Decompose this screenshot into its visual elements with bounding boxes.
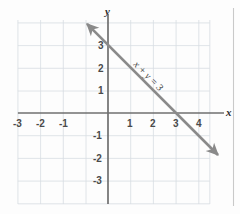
y-axis-label: y: [105, 6, 110, 17]
x-tick-label-neg2: -2: [36, 119, 45, 129]
graph-figure: -3 -2 -1 1 2 3 4 3 2 1 -1 -2 -3 y x x + …: [0, 0, 240, 214]
x-tick-label-4: 4: [196, 119, 202, 129]
coordinate-plane: [0, 0, 240, 214]
x-tick-label-2: 2: [150, 119, 156, 129]
y-tick-label-3: 3: [98, 41, 104, 51]
x-tick-label-1: 1: [127, 119, 133, 129]
y-tick-label-neg1: -1: [93, 131, 102, 141]
grid-vertical-lines: [18, 20, 210, 204]
y-tick-label-neg3: -3: [93, 176, 102, 186]
x-tick-label-neg1: -1: [59, 119, 68, 129]
y-tick-label-2: 2: [98, 64, 104, 74]
y-tick-label-neg2: -2: [93, 154, 102, 164]
y-tick-label-1: 1: [98, 86, 104, 96]
x-tick-label-neg3: -3: [13, 119, 22, 129]
x-axis-label: x: [226, 107, 232, 118]
x-tick-label-3: 3: [173, 119, 179, 129]
